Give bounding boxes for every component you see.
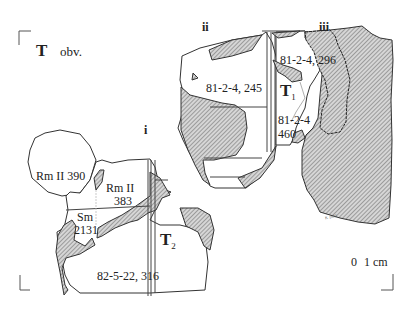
join-label-t2: T2 (160, 231, 176, 251)
group-label-ii: ii (202, 21, 209, 33)
scale-zero: 0 (351, 256, 357, 268)
group-label-iii: iii (319, 21, 329, 33)
side-letter: T (36, 42, 47, 59)
side-label-obverse: obv. (60, 45, 82, 58)
fragment-label-rm-ii-383-line1: Rm II (106, 182, 134, 194)
fragment-label-81-2-4-245: 81-2-4, 245 (206, 82, 262, 94)
fragment-label-rm-ii-390: Rm II 390 (36, 170, 85, 182)
join-label-t1: T1 (280, 82, 296, 102)
scale-unit: 1 cm (364, 256, 388, 268)
fragment-label-sm-2131-line1: Sm (77, 211, 93, 223)
fragment-label-81-2-4-460-line1: 81-2-4 (278, 114, 310, 126)
fragment-label-81-2-4-460-line2: 460 (278, 128, 296, 140)
group-label-i: i (144, 124, 147, 136)
tablet-fragment-drawing: T obv. i ii iii T1 T2 81-2-4, 245 81-2-4… (0, 0, 412, 312)
fragment-label-rm-ii-383-line2: 383 (114, 195, 132, 207)
fragment-label-sm-2131-line2: 2131 (74, 224, 98, 236)
fragment-group-ii (178, 32, 277, 188)
fragment-label-82-5-22-316: 82-5-22, 316 (97, 270, 159, 282)
fragment-label-81-2-4-296: 81-2-4, 296 (280, 54, 336, 66)
